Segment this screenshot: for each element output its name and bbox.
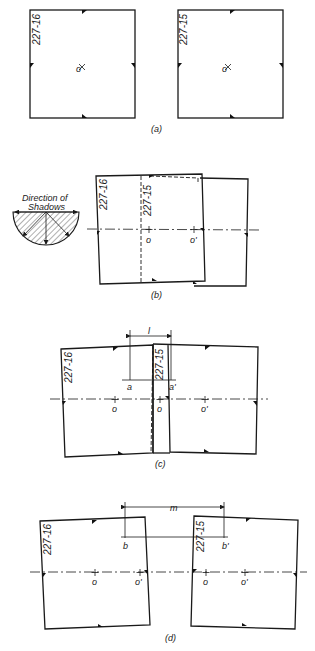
center-cross-icon bbox=[137, 569, 144, 576]
panel-c: l a a' 227-16 227-15 o o o' (c) bbox=[50, 326, 268, 469]
photo-label: 227-15 bbox=[195, 520, 206, 553]
fiducial-mark-icon bbox=[113, 347, 118, 351]
point-label: o' bbox=[241, 577, 248, 587]
point-label: o bbox=[112, 404, 117, 414]
point-label: o bbox=[157, 404, 162, 414]
fiducial-mark-icon bbox=[152, 278, 157, 281]
caption-b: (b) bbox=[151, 290, 162, 300]
stereo-photo-orientation-diagram: 227-16 o 227-15 o (a) Direction of Shado… bbox=[0, 0, 315, 651]
center-cross-icon bbox=[146, 226, 153, 233]
center-cross-icon bbox=[157, 396, 164, 403]
flight-line-axis bbox=[87, 229, 260, 230]
center-cross-icon bbox=[92, 569, 99, 576]
panel-d: m b b' 227-16 o o' 227-15 o o' (d) bbox=[30, 502, 307, 643]
point-label: a' bbox=[169, 382, 176, 392]
fiducial-mark-icon bbox=[193, 569, 197, 573]
fiducial-mark-icon bbox=[204, 449, 209, 452]
point-label: o bbox=[92, 577, 97, 587]
point-label: b' bbox=[222, 541, 229, 551]
point-label: o bbox=[203, 577, 208, 587]
center-cross-icon bbox=[202, 396, 209, 403]
caption-a: (a) bbox=[151, 124, 162, 134]
fiducial-mark-icon bbox=[244, 233, 248, 237]
point-label: a bbox=[127, 382, 132, 392]
fiducial-mark-icon bbox=[82, 114, 87, 118]
fiducial-mark-icon bbox=[92, 520, 97, 524]
fiducial-mark-icon bbox=[205, 346, 210, 350]
center-cross-icon bbox=[203, 569, 210, 576]
photo-label: 227-16 bbox=[42, 523, 53, 556]
shadow-direction-legend: Direction of Shadows bbox=[13, 193, 79, 245]
panel-a: 227-16 o 227-15 o (a) bbox=[30, 10, 283, 134]
point-label: o' bbox=[190, 235, 197, 245]
center-cross-icon bbox=[112, 396, 119, 403]
center-cross-icon bbox=[191, 226, 198, 233]
photo-label: 227-15 bbox=[178, 13, 189, 46]
point-label: o' bbox=[201, 404, 208, 414]
fiducial-mark-icon bbox=[118, 451, 123, 454]
legend-title-line2: Shadows bbox=[28, 202, 66, 212]
fiducial-mark-icon bbox=[242, 623, 247, 626]
photo-label: 227-16 bbox=[98, 178, 109, 211]
fiducial-mark-icon bbox=[246, 518, 251, 522]
panel-b: Direction of Shadows 227-15 227-16 o o' … bbox=[13, 174, 260, 300]
fiducial-mark-icon bbox=[230, 114, 235, 118]
caption-c: (c) bbox=[155, 459, 166, 469]
photo-label: 227-16 bbox=[31, 13, 42, 46]
measure-label: m bbox=[170, 503, 178, 513]
photo-label: 227-15 bbox=[142, 184, 153, 217]
point-label: o' bbox=[135, 577, 142, 587]
photo-227-16 bbox=[30, 10, 135, 118]
photo-label: 227-16 bbox=[63, 351, 74, 384]
center-cross-icon bbox=[242, 569, 249, 576]
photo-label: 227-15 bbox=[154, 348, 165, 381]
measure-label: l bbox=[148, 326, 151, 336]
photo-227-16 bbox=[61, 345, 153, 457]
caption-d: (d) bbox=[165, 633, 176, 643]
point-label: b bbox=[123, 541, 128, 551]
point-label: o bbox=[146, 235, 151, 245]
